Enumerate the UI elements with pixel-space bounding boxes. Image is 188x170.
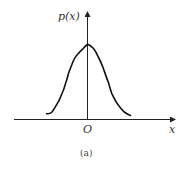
density-curve [47,44,131,115]
origin-label: O [83,123,92,136]
density-diagram: p(x) O x (a) [0,0,188,170]
y-axis-label: p(x) [58,10,80,23]
x-axis-label: x [169,123,176,136]
figure-caption: (a) [80,148,92,158]
